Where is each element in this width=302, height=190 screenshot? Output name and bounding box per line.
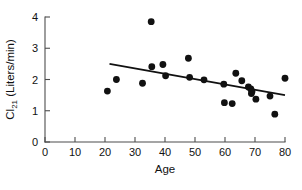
data-point	[148, 18, 155, 25]
x-tick-label: 80	[279, 146, 291, 158]
regression-line	[110, 64, 286, 95]
data-point	[267, 93, 274, 100]
axis-titles-group: AgeCl21 (Liters/min)	[4, 39, 175, 175]
data-point	[221, 99, 228, 106]
y-tick-label: 0	[32, 136, 38, 148]
data-point	[113, 76, 120, 83]
y-tick-label: 1	[32, 105, 38, 117]
data-point	[249, 88, 256, 95]
x-tick-label: 10	[69, 146, 81, 158]
x-axis-title: Age	[155, 163, 175, 175]
data-point	[186, 74, 193, 81]
data-point	[104, 88, 111, 95]
data-point	[139, 80, 146, 87]
x-tick-label: 60	[219, 146, 231, 158]
ticks-group	[45, 17, 285, 142]
data-point	[148, 63, 155, 70]
data-point	[232, 70, 239, 77]
data-point	[201, 76, 208, 83]
x-tick-label: 50	[189, 146, 201, 158]
x-tick-label: 20	[99, 146, 111, 158]
axes-group	[45, 17, 285, 142]
y-tick-label: 3	[32, 42, 38, 54]
y-axis-title: Cl21 (Liters/min)	[4, 39, 19, 120]
x-tick-label: 70	[249, 146, 261, 158]
plot-canvas: 0102030405060708001234 AgeCl21 (Liters/m…	[0, 0, 302, 190]
y-tick-label: 2	[32, 74, 38, 86]
x-tick-label: 30	[129, 146, 141, 158]
y-tick-label: 4	[32, 11, 38, 23]
data-point	[185, 55, 192, 62]
data-point	[162, 72, 169, 79]
tick-labels-group: 0102030405060708001234	[32, 11, 291, 158]
scatter-plot-figure: 0102030405060708001234 AgeCl21 (Liters/m…	[0, 0, 302, 190]
data-point	[220, 81, 227, 88]
data-point	[238, 77, 245, 84]
x-tick-label: 40	[159, 146, 171, 158]
data-point	[160, 61, 167, 68]
data-point	[253, 96, 260, 103]
x-tick-label: 0	[42, 146, 48, 158]
data-point	[271, 111, 278, 118]
data-point	[229, 100, 236, 107]
regression-fit-line	[110, 64, 286, 95]
data-point	[282, 75, 289, 82]
